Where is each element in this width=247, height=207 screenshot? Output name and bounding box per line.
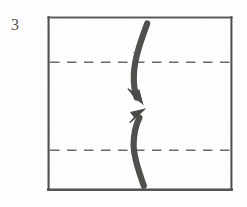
paper-grain-overlay (0, 0, 247, 207)
origami-step-figure: 3 (0, 0, 247, 207)
origami-diagram (0, 0, 247, 207)
